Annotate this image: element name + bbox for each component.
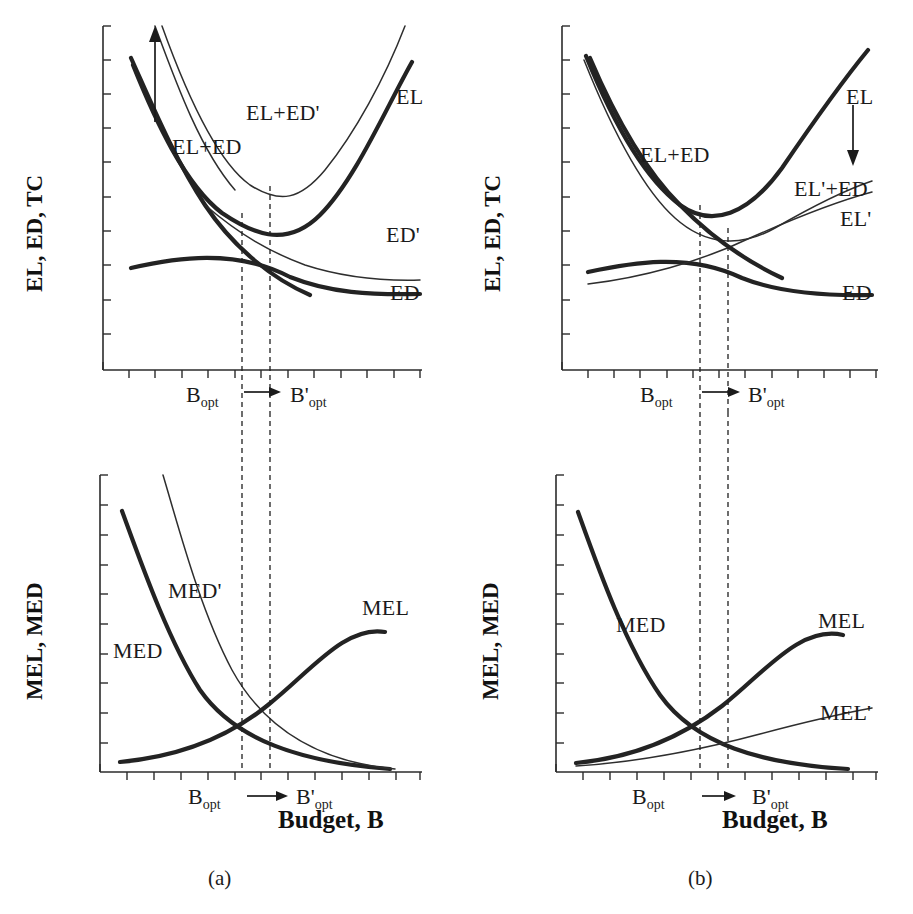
panel-b-top-bopt-base: B xyxy=(640,382,655,407)
panel-a-curve-label-el-plus-ed: EL+ED xyxy=(172,134,242,160)
curve-mel-panel-b xyxy=(576,634,843,763)
panel-a-top-boptprime-label: B'opt xyxy=(290,382,327,411)
panel-a-top-bopt-label: Bopt xyxy=(186,382,219,411)
panel-a-bottom-ylabel: MEL, MED xyxy=(22,582,48,700)
panel-a-curve-label-ed: ED xyxy=(390,280,420,306)
panel-b-curve-label-mel: MEL xyxy=(818,608,865,634)
panel-a-curve-label-med-prime: MED' xyxy=(168,578,222,604)
panel-b-caption: (b) xyxy=(688,866,713,891)
panel-a-curve-label-el: EL xyxy=(396,84,423,110)
panel-b-bottom-bopt-sub: opt xyxy=(647,797,665,812)
panel-a-xlabel: Budget, B xyxy=(278,806,384,834)
curve-el-panel-b xyxy=(590,58,782,278)
curve-elprime-panel-b xyxy=(588,192,872,284)
panel-a-bottom-bopt-base: B xyxy=(188,784,203,809)
panel-b-bottom-y-ticks xyxy=(556,475,564,743)
panel-b-top-boptprime-label: B'opt xyxy=(748,382,785,411)
panel-a-curve-label-ed-prime: ED' xyxy=(386,222,420,248)
panel-a-caption: (a) xyxy=(208,866,231,891)
shift-arrow-panel-a-top xyxy=(244,387,281,397)
panel-a-top-bopt-sub: opt xyxy=(201,395,219,410)
panel-b-top-bopt-label: Bopt xyxy=(640,382,673,411)
panel-a-top-ylabel: EL, ED, TC xyxy=(22,175,48,292)
panel-b-bottom-chart xyxy=(556,412,878,801)
panel-a-bottom-bopt-label: Bopt xyxy=(188,784,221,813)
curve-med-prime-panel-a xyxy=(163,475,395,769)
panel-a-curve-label-med: MED xyxy=(113,638,163,664)
panel-a-curve-label-el-plus-ed-prime: EL+ED' xyxy=(246,100,320,126)
panel-a-bottom-y-ticks xyxy=(100,475,108,743)
panel-b-curve-label-ed: ED xyxy=(842,280,872,306)
panel-b-curve-label-med: MED xyxy=(616,612,666,638)
panel-b-top-ylabel: EL, ED, TC xyxy=(480,175,506,292)
panel-b-curve-label-elprime: EL' xyxy=(840,206,871,232)
shift-arrow-panel-a-bottom xyxy=(247,791,288,801)
shift-arrow-panel-b-top xyxy=(702,387,740,397)
panel-a-top-y-ticks xyxy=(103,26,111,334)
panel-b-top-bopt-sub: opt xyxy=(655,395,673,410)
panel-a-top-chart xyxy=(103,26,422,412)
panel-b-curve-label-el-plus-ed: EL+ED xyxy=(640,142,710,168)
panel-a-curve-label-mel: MEL xyxy=(362,595,409,621)
down-arrow-panel-b xyxy=(847,105,859,166)
panel-b-bottom-ylabel: MEL, MED xyxy=(478,582,504,700)
figure-root: EL, ED, TC EL EL+ED EL+ED' ED' ED Bopt B… xyxy=(0,0,913,914)
panel-b-top-y-ticks xyxy=(562,26,570,334)
panel-b-curve-label-mel-prime: MEL' xyxy=(820,700,871,726)
panel-b-curve-label-el: EL xyxy=(846,84,873,110)
panel-b-bottom-bopt-base: B xyxy=(632,784,647,809)
panel-a-top-bopt-base: B xyxy=(186,382,201,407)
curve-ed-panel-b xyxy=(588,262,872,295)
panel-a-top-boptprime-base: B' xyxy=(290,382,309,407)
panel-a-bottom-bopt-sub: opt xyxy=(203,797,221,812)
panel-b-top-boptprime-base: B' xyxy=(748,382,767,407)
figure-svg xyxy=(0,0,913,914)
panel-b-top-chart xyxy=(562,26,878,412)
panel-b-top-boptprime-sub: opt xyxy=(767,395,785,410)
panel-b-bottom-bopt-label: Bopt xyxy=(632,784,665,813)
panel-a-top-boptprime-sub: opt xyxy=(309,395,327,410)
panel-b-xlabel: Budget, B xyxy=(722,806,828,834)
panel-b-curve-label-elprime-plus-ed: EL'+ED xyxy=(794,176,868,202)
shift-arrow-panel-b-bottom xyxy=(702,791,736,801)
